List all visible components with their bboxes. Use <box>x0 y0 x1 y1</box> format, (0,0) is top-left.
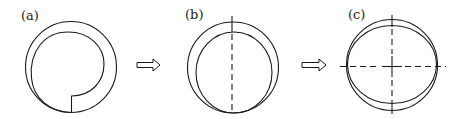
hollow-right-arrow-icon <box>137 59 160 71</box>
outer-circle <box>188 22 279 113</box>
panel-b-label: (b) <box>185 7 203 22</box>
inner-spiral <box>31 32 104 113</box>
arrow-a-to-b <box>137 59 160 71</box>
panel-c-label: (c) <box>348 7 365 22</box>
arrow-b-to-c <box>302 59 326 71</box>
hollow-right-arrow-icon <box>302 59 326 71</box>
panel-a: (a) <box>21 8 117 113</box>
panel-a-label: (a) <box>21 8 39 23</box>
diagram-canvas: (a) (b) (c) <box>0 0 462 119</box>
panel-b: (b) <box>185 7 279 114</box>
inner-circle <box>196 32 272 113</box>
panel-c: (c) <box>340 7 446 114</box>
